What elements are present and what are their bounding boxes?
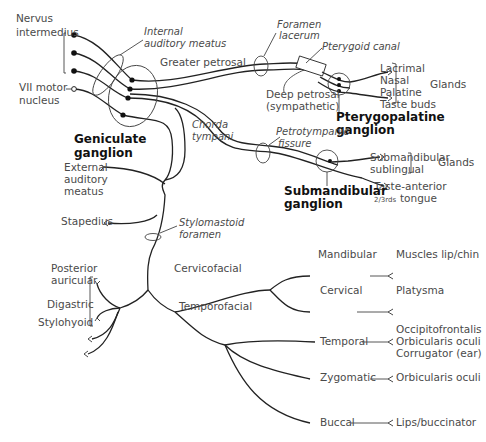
palatine-label: Palatine [380,86,422,98]
geniculate-dot [125,95,130,100]
pterygopalatine-ganglion-label: Pterygopalatine [336,110,445,124]
stylohyoid-label: Stylohyoid [38,316,93,328]
posterior-auricular-label: Posterior [51,262,98,274]
petrotympanic-fissure-label: Petrotympanic [276,126,350,137]
vii-motor-nucleus-label-2: nucleus [19,94,60,106]
chorda-tympani-label-2: tympani [192,131,233,142]
digastric-label: Digastric [47,298,94,310]
endplate-icon [388,339,393,345]
stapedius-label: Stapedius [61,215,113,227]
main-trunk [148,180,165,290]
zygomatic-branch [225,345,310,379]
internal-auditory-meatus-oval [88,51,129,99]
greater-petrosal-label: Greater petrosal [160,56,246,68]
occipitofrontalis-label: Occipitofrontalis [396,323,482,335]
tongue-label: tongue [400,192,437,204]
facial-division [148,290,175,312]
geniculate-dot [129,77,134,82]
pterygopalatine-dot [337,83,341,87]
temporal-branch [225,341,315,345]
nerve-paths [74,35,388,423]
nucleus-dot [71,50,77,56]
nervus-intermedius-label-2: intermedius [16,26,79,38]
submandibular-ganglion-label-2: ganglion [284,197,343,211]
endplate-icon [95,318,100,321]
endplate-icon [388,273,393,279]
glands-label-sm: Glands [438,156,474,168]
motor-fiber [74,89,123,115]
submandibular-ganglion-label: Submandibular [284,184,387,198]
stylomastoid-foramen-oval [145,234,161,241]
stylomastoid-foramen-label: Stylomastoid [179,217,245,228]
endplate-icon [84,351,88,357]
mandibular-branch [270,276,310,290]
nucleus-dot [71,68,77,74]
motor-nucleus-dot [72,87,77,92]
buccal-branch [225,345,310,423]
lips-buccinator-label: Lips/buccinator [396,416,477,428]
nervus-intermedius-label: Nervus [16,12,53,24]
greater-petrosal-nerve-b [130,69,305,89]
posterior-auricular-upper [97,284,120,308]
temporofacial-label: Temporofacial [178,300,252,312]
temporofacial-trunk [175,312,225,345]
external-auditory-meatus-label: External [64,161,108,173]
cervical-branch [270,290,310,312]
pterygopalatine-dot [337,77,341,81]
buccal-label: Buccal [320,416,355,428]
geniculate-dot [127,86,132,91]
lacrimal-label: Lacrimal [380,62,425,74]
glands-label-ptg: Glands [430,78,466,90]
zygomatic-label: Zygomatic [320,371,376,383]
posterior-trunk [120,290,148,308]
external-auditory-meatus-label-3: meatus [64,185,103,197]
digastric-branch [92,308,120,339]
internal-auditory-meatus-label: Internal [144,26,183,37]
diagram-svg: Nervus intermedius VII motor nucleus Int… [0,0,486,442]
geniculate-ganglion-label: Geniculate [74,132,146,146]
vii-motor-nucleus-label: VII motor [19,81,68,93]
endplate-icon [388,376,393,382]
cervicofacial-label: Cervicofacial [174,262,242,274]
deep-petrosal-label-2: (sympathetic) [266,100,339,112]
labels: Nervus intermedius VII motor nucleus Int… [16,12,482,428]
stylomastoid-foramen-label-2: foramen [179,229,221,240]
endplate-icon [388,309,393,315]
corrugator-label: Corrugator (ear) [396,347,482,359]
endplate-icon [388,420,393,426]
foramen-lacerum-label: Foramen [277,19,321,30]
foramen-lacerum-oval [254,56,268,76]
sublingual-gland-label: sublingual [370,163,424,175]
facial-nerve-diagram: Nervus intermedius VII motor nucleus Int… [0,0,486,442]
external-auditory-branch [104,167,165,184]
petrotympanic-fissure-label-2: fissure [278,138,311,149]
internal-auditory-meatus-label-2: auditory meatus [144,38,226,49]
taste-buds-label: Taste buds [379,98,436,110]
platysma-label: Platysma [396,284,444,296]
cervical-label: Cervical [320,284,362,296]
mandibular-label: Mandibular [318,248,377,260]
posterior-auricular-label-2: auricular [51,274,98,286]
nasal-label: Nasal [380,74,409,86]
chorda-tympani-label: Chorda [192,119,228,130]
deep-petrosal-label: Deep petrosal [266,88,340,100]
geniculate-dot [120,112,125,117]
pterygoid-canal-label: Pterygoid canal [322,41,400,52]
stapedius-branch [108,215,157,224]
endplate-icon [88,336,92,342]
submandibular-dot [328,159,332,163]
temporal-label: Temporal [319,335,368,347]
geniculate-ganglion-label-2: ganglion [74,146,133,160]
external-auditory-meatus-label-2: auditory [64,173,108,185]
orbicularis-oculi-label-zygomatic: Orbicularis oculi [396,371,481,383]
chorda-loop [165,108,185,180]
pterygoid-canal-box [296,56,326,76]
muscles-lip-chin-label: Muscles lip/chin [396,248,479,260]
foramen-lacerum-label-2: lacerum [279,30,320,41]
orbicularis-oculi-label-temporal: Orbicularis oculi [396,335,481,347]
